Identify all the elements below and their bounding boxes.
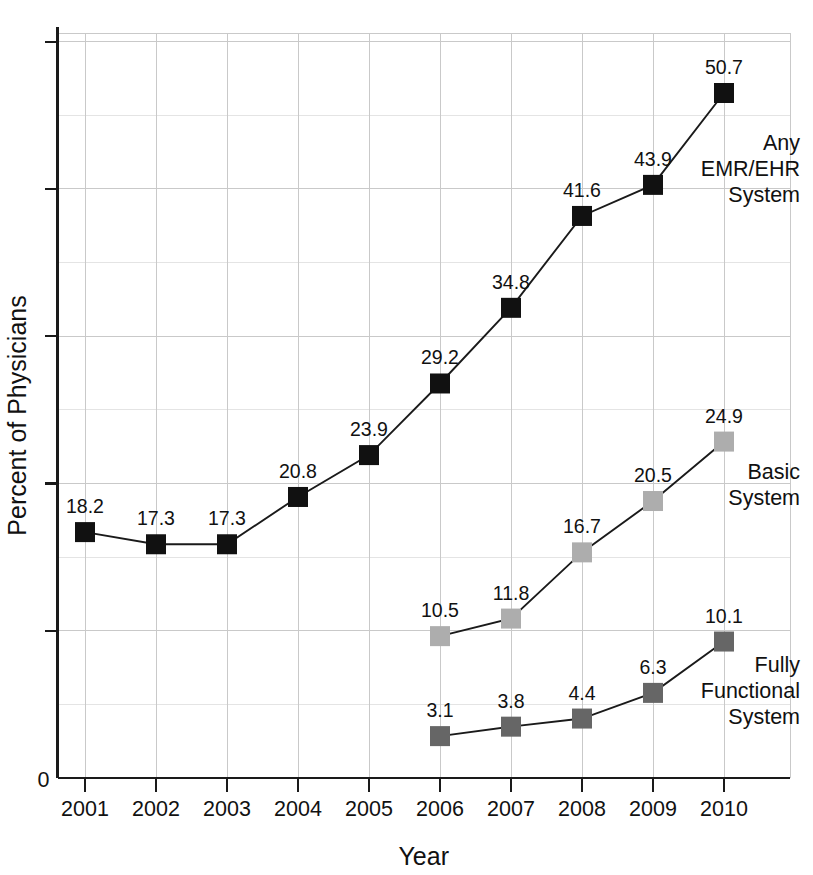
data-marker [75,522,95,542]
data-point-label: 3.8 [497,690,524,712]
x-tick-label: 2003 [203,797,251,821]
data-point-label: 6.3 [639,656,666,678]
data-marker [430,626,450,646]
series-label-line: System [728,183,800,207]
data-point-label: 10.5 [421,599,459,621]
data-marker [572,542,592,562]
data-marker [430,373,450,393]
data-point-label: 3.1 [426,699,453,721]
x-tick-label: 2008 [558,797,606,821]
data-point-label: 43.9 [634,148,672,170]
data-marker [643,491,663,511]
data-point-label: 18.2 [66,495,104,517]
gridlines [58,33,791,778]
series-label-line: Functional [701,679,800,703]
data-marker [501,298,521,318]
series-label-2: BasicSystem [728,460,800,510]
x-tick-label: 2005 [345,797,393,821]
data-point-label: 41.6 [563,179,601,201]
data-marker [146,534,166,554]
data-point-label: 17.3 [137,507,175,529]
data-point-label: 16.7 [563,515,601,537]
y-axis-origin-label: 0 [38,768,50,792]
x-tick-label: 2001 [61,797,109,821]
x-tick-label: 2010 [700,797,748,821]
series-label-line: System [728,486,800,510]
data-point-label: 20.5 [634,464,672,486]
axis-ticks [45,42,725,792]
data-point-label: 23.9 [350,418,388,440]
series-label-line: System [728,705,800,729]
data-marker [643,683,663,703]
x-axis-title: Year [398,842,449,870]
y-axis-title: Percent of Physicians [3,295,31,535]
series-label-line: Basic [747,460,800,484]
x-tick-label: 2007 [487,797,535,821]
data-point-label: 11.8 [493,582,530,604]
x-tick-label: 2009 [629,797,677,821]
data-marker [572,206,592,226]
x-tick-label: 2004 [274,797,322,821]
axis-text: 2001200220032004200520062007200820092010… [3,295,748,870]
data-point-label: 17.3 [208,507,246,529]
series-label-3: FullyFunctionalSystem [701,653,800,729]
data-marker [359,445,379,465]
data-point-labels: 18.217.317.320.823.929.234.841.643.950.7… [66,56,743,721]
data-markers [75,83,734,746]
x-tick-label: 2002 [132,797,180,821]
data-point-label: 34.8 [492,271,530,293]
data-marker [714,432,734,452]
data-point-label: 4.4 [568,682,595,704]
data-marker [217,534,237,554]
data-point-label: 50.7 [705,56,743,78]
series-lines [85,93,724,736]
data-marker [430,726,450,746]
data-marker [288,487,308,507]
data-point-label: 10.1 [705,605,743,627]
data-marker [643,175,663,195]
data-marker [572,709,592,729]
data-point-label: 24.9 [705,405,743,427]
series-label-line: Fully [755,653,801,677]
x-tick-label: 2006 [416,797,464,821]
data-marker [501,609,521,629]
axes [58,27,791,778]
data-point-label: 20.8 [279,460,317,482]
series-label-1: AnyEMR/EHRSystem [701,131,800,207]
data-marker [501,717,521,737]
series-label-line: Any [763,131,800,155]
data-marker [714,632,734,652]
chart-container: 18.217.317.320.823.929.234.841.643.950.7… [0,0,813,875]
data-marker [714,83,734,103]
data-point-label: 29.2 [421,346,459,368]
series-label-line: EMR/EHR [701,157,800,181]
line-chart: 18.217.317.320.823.929.234.841.643.950.7… [0,0,813,875]
